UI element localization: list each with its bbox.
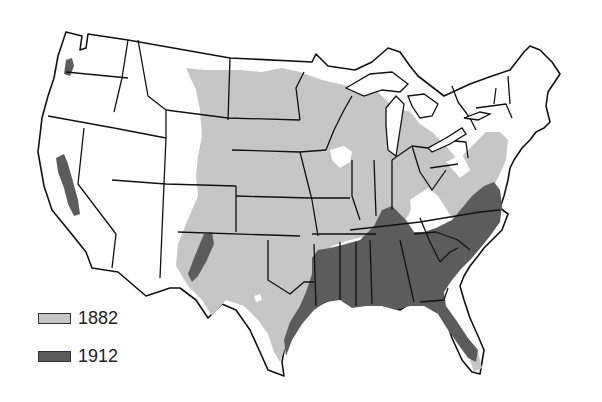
legend-swatch-1912 xyxy=(38,351,71,362)
legend-label: 1882 xyxy=(78,309,118,327)
us-map xyxy=(0,0,602,402)
legend-item-1912: 1912 xyxy=(38,347,118,365)
legend-label: 1912 xyxy=(78,347,118,365)
legend-item-1882: 1882 xyxy=(38,309,118,327)
legend-swatch-1882 xyxy=(38,313,71,324)
